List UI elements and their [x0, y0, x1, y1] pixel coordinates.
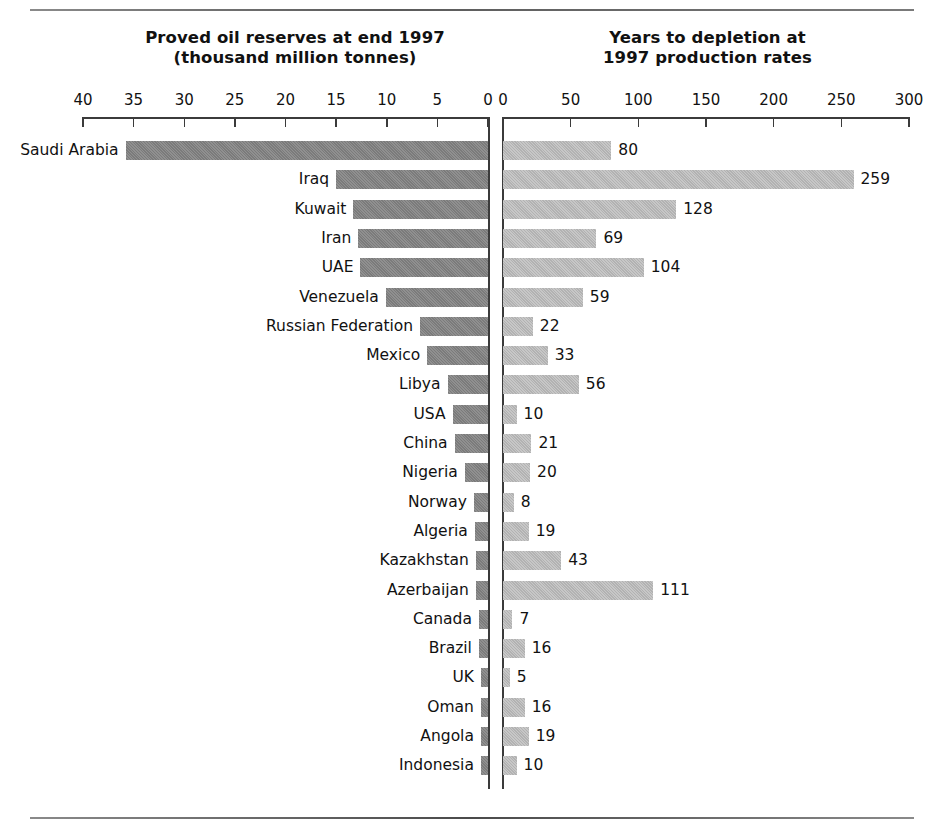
depletion-value-label: 80 — [618, 141, 638, 160]
reserves-bar — [420, 317, 488, 336]
depletion-bar — [503, 258, 644, 277]
chart-row: Azerbaijan111 — [0, 581, 942, 600]
depletion-value-label: 128 — [683, 200, 713, 219]
depletion-value-label: 21 — [538, 434, 558, 453]
chart-row: Brazil16 — [0, 639, 942, 658]
chart-row: Kazakhstan43 — [0, 551, 942, 570]
chart-row: Venezuela59 — [0, 288, 942, 307]
depletion-bar — [503, 346, 548, 365]
depletion-bar — [503, 141, 611, 160]
category-label-china: China — [403, 434, 447, 453]
depletion-bar — [503, 522, 529, 541]
depletion-bar — [503, 551, 561, 570]
depletion-bar — [503, 610, 512, 629]
category-label-russian-federation: Russian Federation — [266, 317, 413, 336]
reserves-bar — [481, 698, 488, 717]
depletion-value-label: 111 — [660, 581, 690, 600]
chart-row: USA10 — [0, 405, 942, 424]
chart-row: Indonesia10 — [0, 756, 942, 775]
chart-row: Algeria19 — [0, 522, 942, 541]
category-label-usa: USA — [413, 405, 445, 424]
reserves-bar — [479, 610, 488, 629]
reserves-bar — [453, 405, 488, 424]
depletion-bar — [503, 200, 676, 219]
depletion-value-label: 10 — [524, 405, 544, 424]
depletion-value-label: 7 — [519, 610, 529, 629]
reserves-bar — [126, 141, 488, 160]
reserves-bar — [481, 756, 488, 775]
chart-rows: Saudi Arabia80Iraq259Kuwait128Iran69UAE1… — [0, 0, 942, 828]
reserves-bar — [360, 258, 488, 277]
depletion-value-label: 19 — [536, 727, 556, 746]
chart-row: Saudi Arabia80 — [0, 141, 942, 160]
reserves-bar — [481, 668, 488, 687]
depletion-bar — [503, 668, 510, 687]
category-label-iraq: Iraq — [299, 170, 329, 189]
depletion-bar — [503, 727, 529, 746]
category-label-uk: UK — [452, 668, 474, 687]
depletion-value-label: 259 — [861, 170, 891, 189]
category-label-saudi-arabia: Saudi Arabia — [20, 141, 118, 160]
depletion-value-label: 8 — [521, 493, 531, 512]
depletion-value-label: 43 — [568, 551, 588, 570]
chart-row: Libya56 — [0, 375, 942, 394]
chart-row: Russian Federation22 — [0, 317, 942, 336]
category-label-iran: Iran — [321, 229, 351, 248]
reserves-bar — [474, 493, 488, 512]
depletion-bar — [503, 581, 653, 600]
reserves-bar — [455, 434, 488, 453]
depletion-value-label: 56 — [586, 375, 606, 394]
category-label-brazil: Brazil — [429, 639, 472, 658]
reserves-bar — [479, 639, 488, 658]
category-label-mexico: Mexico — [366, 346, 420, 365]
category-label-angola: Angola — [420, 727, 474, 746]
chart-row: Canada7 — [0, 610, 942, 629]
reserves-bar — [358, 229, 488, 248]
depletion-bar — [503, 288, 583, 307]
category-label-uae: UAE — [322, 258, 354, 277]
chart-row: Kuwait128 — [0, 200, 942, 219]
chart-row: China21 — [0, 434, 942, 453]
chart-row: UAE104 — [0, 258, 942, 277]
chart-row: Oman16 — [0, 698, 942, 717]
category-label-kazakhstan: Kazakhstan — [380, 551, 469, 570]
category-label-libya: Libya — [399, 375, 440, 394]
chart-row: Mexico33 — [0, 346, 942, 365]
depletion-value-label: 59 — [590, 288, 610, 307]
depletion-value-label: 16 — [532, 639, 552, 658]
reserves-bar — [476, 551, 488, 570]
reserves-bar — [353, 200, 488, 219]
depletion-bar — [503, 639, 525, 658]
chart-row: Angola19 — [0, 727, 942, 746]
reserves-bar — [481, 727, 488, 746]
reserves-bar — [336, 170, 488, 189]
category-label-canada: Canada — [413, 610, 472, 629]
chart-row: Nigeria20 — [0, 463, 942, 482]
category-label-kuwait: Kuwait — [295, 200, 347, 219]
category-label-nigeria: Nigeria — [402, 463, 457, 482]
depletion-bar — [503, 317, 533, 336]
category-label-oman: Oman — [427, 698, 474, 717]
depletion-value-label: 19 — [536, 522, 556, 541]
depletion-value-label: 22 — [540, 317, 560, 336]
depletion-bar — [503, 170, 854, 189]
depletion-value-label: 33 — [555, 346, 575, 365]
chart-row: Iran69 — [0, 229, 942, 248]
depletion-bar — [503, 493, 514, 512]
reserves-bar — [475, 522, 488, 541]
category-label-venezuela: Venezuela — [299, 288, 379, 307]
chart-row: Norway8 — [0, 493, 942, 512]
depletion-bar — [503, 756, 517, 775]
reserves-bar — [476, 581, 488, 600]
depletion-bar — [503, 405, 517, 424]
depletion-bar — [503, 463, 530, 482]
depletion-bar — [503, 698, 525, 717]
category-label-algeria: Algeria — [413, 522, 467, 541]
depletion-value-label: 5 — [517, 668, 527, 687]
depletion-value-label: 69 — [603, 229, 623, 248]
reserves-bar — [465, 463, 488, 482]
chart-row: UK5 — [0, 668, 942, 687]
category-label-norway: Norway — [408, 493, 467, 512]
depletion-bar — [503, 434, 531, 453]
reserves-bar — [386, 288, 488, 307]
